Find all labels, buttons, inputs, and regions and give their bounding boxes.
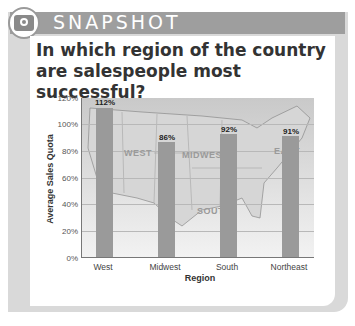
map-label-west: WEST [124,148,152,158]
value-label-south: 92% [214,125,244,134]
x-tick-south: South [197,262,257,272]
plot-area: WEST MIDWEST SOUTH EAST 112% 86% 92% 91% [81,98,314,258]
x-tick-west: West [73,262,133,272]
gridline-100 [82,124,314,125]
x-tick-midwest: Midwest [135,262,195,272]
gridline-60 [82,178,314,179]
brand-title: SNAPSHOT [53,11,181,33]
bar-south [220,134,237,257]
gridline-20 [82,231,314,232]
gridline-40 [82,204,314,205]
y-axis-label: Average Sales Quota [45,129,55,229]
chart-question: In which region of the country are sales… [36,40,336,103]
value-label-northeast: 91% [276,127,306,136]
y-tick-120: 120% [50,94,78,103]
bar-west [96,108,113,257]
bar-midwest [158,142,175,257]
y-tick-100: 100% [50,120,78,129]
value-label-midwest: 86% [152,133,182,142]
bar-northeast [282,136,299,257]
x-axis-label: Region [160,273,240,283]
x-tick-northeast: Northeast [259,262,319,272]
value-label-west: 112% [90,98,120,107]
camera-lens-icon [20,18,28,26]
